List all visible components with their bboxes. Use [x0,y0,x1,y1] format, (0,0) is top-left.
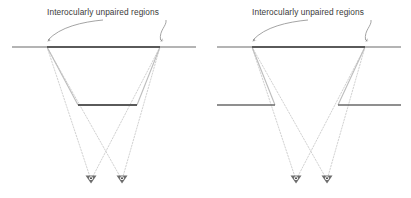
right-panel: Interocularly unpaired regions [205,0,411,198]
left-panel-eye-left [86,176,97,184]
left-panel-eye-right [117,176,128,184]
solid-ray [137,47,160,105]
solid-ray [338,47,365,105]
solid-ray [252,47,275,105]
right-leader-line [160,20,166,40]
right-panel-eye-right [322,176,333,184]
right-leader-arrowhead [160,38,164,41]
right-panel-eye-left [291,176,302,184]
left-leader-line [48,20,103,40]
right-leader-line [365,20,371,40]
right-leader-arrowhead [365,38,369,41]
left-dotted-ray-group [47,47,160,180]
dotted-ray [252,47,327,180]
left-solid-ray-group [47,47,160,105]
left-panel: Interocularly unpaired regions [0,0,206,198]
left-panel-caption: Interocularly unpaired regions [47,7,159,17]
left-leader-line [253,20,308,40]
dotted-ray [296,47,365,180]
stereo-occlusion-figure: Interocularly unpaired regions [0,0,411,198]
dotted-ray [122,47,160,180]
dotted-ray [327,47,365,180]
right-panel-caption: Interocularly unpaired regions [252,7,364,17]
solid-ray [47,47,78,105]
right-solid-ray-group [252,47,365,105]
dotted-ray [91,47,160,180]
right-dotted-ray-group [252,47,365,180]
